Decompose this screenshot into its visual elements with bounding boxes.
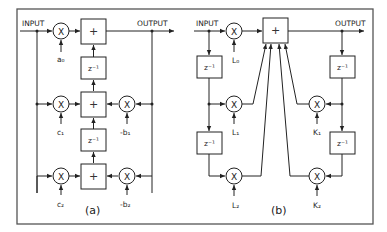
- delay-b-left-1: z⁻¹: [197, 56, 222, 78]
- coef-L1: L₁: [232, 128, 239, 137]
- svg-text:X: X: [314, 100, 320, 110]
- svg-text:z⁻¹: z⁻¹: [204, 63, 215, 72]
- svg-text:+: +: [89, 170, 98, 183]
- adder-a-1: +: [81, 92, 106, 117]
- multiplier-c2: X: [53, 168, 69, 184]
- delay-a-1: z⁻¹: [81, 57, 106, 79]
- svg-text:X: X: [58, 172, 64, 182]
- adder-a-0: +: [81, 19, 106, 44]
- svg-text:z⁻¹: z⁻¹: [204, 139, 215, 148]
- coef-L0: L₀: [232, 56, 239, 65]
- svg-text:z⁻¹: z⁻¹: [88, 136, 99, 145]
- adder-b: +: [263, 18, 288, 43]
- multiplier-b2: X: [119, 168, 135, 184]
- panel-a: INPUT OUTPUT X a₀ + z⁻¹: [20, 19, 174, 217]
- multiplier-L0: X: [226, 23, 242, 39]
- svg-text:X: X: [124, 100, 130, 110]
- svg-text:+: +: [271, 24, 280, 37]
- filter-structures-diagram: INPUT OUTPUT X a₀ + z⁻¹: [0, 0, 387, 232]
- figure-frame: [17, 9, 373, 224]
- multiplier-L1: X: [226, 96, 242, 112]
- coef-b1: -b₁: [120, 128, 130, 137]
- coef-K1: K₁: [313, 128, 321, 137]
- svg-text:X: X: [124, 172, 130, 182]
- input-label-a: INPUT: [22, 19, 45, 28]
- output-label-a: OUTPUT: [137, 19, 168, 28]
- coef-c1: c₁: [57, 128, 64, 137]
- svg-text:+: +: [89, 25, 98, 38]
- multiplier-b1: X: [119, 96, 135, 112]
- caption-b: (b): [271, 204, 287, 217]
- coef-b2: -b₂: [120, 200, 130, 209]
- svg-text:z⁻¹: z⁻¹: [337, 63, 348, 72]
- multiplier-K2: X: [309, 168, 325, 184]
- delay-b-right-1: z⁻¹: [330, 56, 355, 78]
- coef-c2: c₂: [57, 200, 64, 209]
- multiplier-K1: X: [309, 96, 325, 112]
- delay-b-left-2: z⁻¹: [197, 132, 222, 154]
- svg-text:X: X: [231, 27, 237, 37]
- delay-b-right-2: z⁻¹: [330, 132, 355, 154]
- svg-text:X: X: [314, 172, 320, 182]
- panel-b: INPUT OUTPUT X L₀ + z⁻¹ z⁻¹: [194, 18, 366, 217]
- svg-text:+: +: [89, 98, 98, 111]
- svg-text:X: X: [231, 100, 237, 110]
- coef-a0: a₀: [57, 55, 65, 64]
- delay-a-2: z⁻¹: [81, 129, 106, 151]
- multiplier-c1: X: [53, 96, 69, 112]
- svg-text:z⁻¹: z⁻¹: [88, 64, 99, 73]
- svg-text:X: X: [58, 100, 64, 110]
- caption-a: (a): [85, 204, 100, 217]
- svg-text:z⁻¹: z⁻¹: [337, 139, 348, 148]
- svg-text:X: X: [231, 172, 237, 182]
- input-label-b: INPUT: [196, 19, 219, 28]
- coef-L2: L₂: [232, 201, 239, 210]
- output-label-b: OUTPUT: [335, 19, 366, 28]
- svg-text:X: X: [58, 27, 64, 37]
- multiplier-a0: X: [53, 23, 69, 39]
- coef-K2: K₂: [313, 201, 321, 210]
- adder-a-2: +: [81, 164, 106, 189]
- multiplier-L2: X: [226, 168, 242, 184]
